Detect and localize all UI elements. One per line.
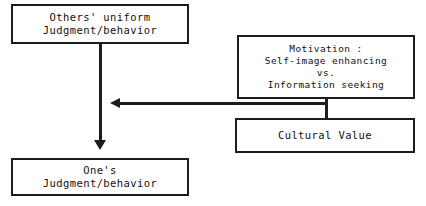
node-ones-line-2: Judgment/behavior: [43, 177, 157, 190]
node-cultural-value: Cultural Value: [235, 118, 415, 153]
node-ones-judgment: One's Judgment/behavior: [11, 158, 189, 196]
node-motivation-line-2: Self-image enhancing: [265, 55, 387, 67]
node-motivation-line-3: vs.: [317, 67, 335, 79]
node-others-uniform-judgment: Others' uniform Judgment/behavior: [11, 4, 189, 44]
arrowhead-down-icon: [94, 140, 106, 150]
connector-motivation-to-flow-line: [118, 102, 328, 105]
node-cultural-line-1: Cultural Value: [278, 129, 372, 142]
diagram-canvas: Others' uniform Judgment/behavior Motiva…: [0, 0, 426, 206]
node-ones-line-1: One's: [83, 164, 117, 177]
connector-others-to-ones-line: [99, 44, 102, 144]
node-others-line-2: Judgment/behavior: [43, 24, 157, 37]
arrowhead-left-icon: [110, 98, 120, 108]
node-motivation-line-4: Information seeking: [268, 79, 384, 91]
node-others-line-1: Others' uniform: [50, 11, 151, 24]
node-motivation-line-1: Motivation :: [289, 43, 362, 55]
node-motivation: Motivation : Self-image enhancing vs. In…: [237, 35, 415, 99]
connector-motivation-to-cultural-line: [325, 99, 328, 119]
